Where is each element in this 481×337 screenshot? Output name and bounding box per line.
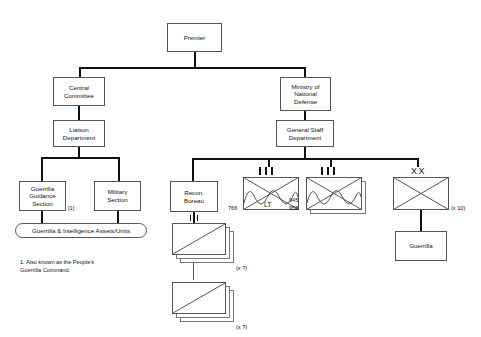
stack-diagonal-icon xyxy=(172,223,226,255)
unit-766-inner-label: LT xyxy=(264,201,272,208)
node-guerrilla-intelligence-assets: Guerrilla & Intelligence Assets/Units xyxy=(15,223,147,238)
connector-mnd-to-general-staff xyxy=(304,111,306,120)
node-ministry-national-defense: Ministry of National Defense xyxy=(280,77,331,111)
node-recon-bureau: Recon. Bureau xyxy=(170,181,218,212)
connector-division-to-guerrilla xyxy=(420,210,422,231)
unit-division-multiplier: (x 10) xyxy=(451,205,465,211)
connector-premier-stem xyxy=(194,52,196,68)
node-guerrilla: Guerrilla xyxy=(395,231,447,261)
connector-gsd-to-recon-bureau xyxy=(192,158,194,181)
connector-to-guerrilla-guidance xyxy=(41,157,43,181)
node-premier-label: Premier xyxy=(184,34,206,42)
node-general-staff-department: General Staff Department xyxy=(276,120,334,147)
recon-stack-upper-multiplier: (x ?) xyxy=(236,265,247,271)
connector-premier-bus xyxy=(79,67,306,69)
echelon-tick-766-b xyxy=(265,167,267,175)
node-recon-bureau-label: Recon. Bureau xyxy=(184,189,204,204)
unit-945-958-designation: 945 958 xyxy=(289,197,298,212)
echelon-tick-766-c xyxy=(271,167,273,175)
connector-to-military-section xyxy=(118,157,120,181)
recon-stack-lower xyxy=(172,282,234,322)
node-premier: Premier xyxy=(167,23,222,52)
echelon-tick-766-a xyxy=(259,167,261,175)
node-military-section-label: Military Section xyxy=(107,188,128,203)
connector-liaison-bus xyxy=(41,157,120,159)
connector-to-central-committee xyxy=(79,67,81,77)
node-liaison-department: Liaison Department xyxy=(53,120,105,147)
connector-gsd-bus xyxy=(192,158,419,160)
node-military-section: Military Section xyxy=(94,181,141,211)
stack-diagonal-icon xyxy=(172,282,226,314)
node-general-staff-label: General Staff Department xyxy=(287,126,323,141)
echelon-tick-945-a xyxy=(321,167,323,175)
recon-stack-lower-multiplier: (x ?) xyxy=(236,324,247,330)
connector-cc-to-liaison xyxy=(78,106,80,120)
recon-stack-upper xyxy=(172,223,234,263)
connector-guidance-to-assets xyxy=(41,211,43,223)
echelon-tick-recon-2 xyxy=(197,215,199,221)
node-guerrilla-label: Guerrilla xyxy=(409,242,432,250)
unit-symbol-945-958 xyxy=(306,177,362,210)
node-liaison-department-label: Liaison Department xyxy=(63,126,95,141)
echelon-tick-945-b xyxy=(327,167,329,175)
connector-recon-to-stack-upper xyxy=(193,212,195,223)
unit-symbol-division xyxy=(393,177,449,210)
node-assets-label: Guerrilla & Intelligence Assets/Units xyxy=(32,227,130,234)
node-guerrilla-guidance-section: Guerrilla Guidance Section xyxy=(19,181,66,211)
echelon-tick-recon-1 xyxy=(190,215,192,221)
footnote-marker-1: [1] xyxy=(68,205,74,211)
echelon-symbol-division-xx: XX xyxy=(411,166,426,176)
node-guerrilla-guidance-label: Guerrilla Guidance Section xyxy=(29,185,56,208)
connector-gsd-to-unit-766 xyxy=(268,158,270,167)
connector-to-ministry-defense xyxy=(304,67,306,77)
org-chart-diagram: Premier Central Committee Liaison Depart… xyxy=(0,0,481,337)
connector-gsd-to-unit-945 xyxy=(330,158,332,167)
unit-766-designation: 766 xyxy=(228,205,237,211)
node-central-committee-label: Central Committee xyxy=(64,84,94,99)
footnote-text: 1. Also known as the People's Guerrilla … xyxy=(20,258,170,274)
node-central-committee: Central Committee xyxy=(53,77,105,106)
connector-stack-dashed-segment xyxy=(193,263,194,280)
node-ministry-defense-label: Ministry of National Defense xyxy=(291,83,319,106)
echelon-tick-945-c xyxy=(333,167,335,175)
connector-military-to-assets xyxy=(117,211,119,223)
